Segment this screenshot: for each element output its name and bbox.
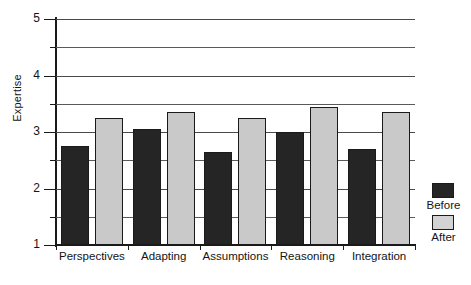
bar-assumptions-after: [238, 118, 266, 245]
y-tick-5: [44, 19, 56, 20]
y-tick-4: [44, 76, 56, 77]
bar-reasoning-after: [310, 107, 338, 245]
bar-group-integration: [343, 19, 415, 245]
x-axis-labels: PerspectivesAdaptingAssumptionsReasoning…: [56, 250, 415, 262]
bar-groups: [56, 19, 415, 245]
bar-group-perspectives: [56, 19, 128, 245]
y-tick-label-2: 2: [6, 181, 40, 195]
legend-item-before: Before: [427, 183, 461, 211]
bar-integration-before: [348, 149, 376, 245]
bar-group-adapting: [128, 19, 200, 245]
x-axis-label-adapting: Adapting: [128, 250, 200, 262]
bar-group-reasoning: [271, 19, 343, 245]
bar-adapting-after: [167, 112, 195, 245]
y-tick-1: [44, 245, 56, 246]
y-tick-2: [44, 189, 56, 190]
chart-legend: BeforeAfter: [416, 183, 471, 247]
x-axis-label-assumptions: Assumptions: [200, 250, 272, 262]
y-tick-label-3: 3: [6, 124, 40, 138]
y-tick-label-5: 5: [6, 11, 40, 25]
y-tick-label-4: 4: [6, 68, 40, 82]
x-axis-label-reasoning: Reasoning: [271, 250, 343, 262]
y-tick-label-1: 1: [6, 237, 40, 251]
bar-group-assumptions: [200, 19, 272, 245]
legend-item-after: After: [431, 215, 455, 243]
y-tick-3: [44, 132, 56, 133]
legend-label-after: After: [431, 231, 455, 243]
bar-perspectives-before: [61, 146, 89, 245]
x-axis-label-integration: Integration: [343, 250, 415, 262]
light-swatch: [432, 215, 454, 230]
legend-label-before: Before: [427, 199, 461, 211]
bar-reasoning-before: [276, 132, 304, 245]
bar-chart: Expertise 12345 PerspectivesAdaptingAssu…: [0, 0, 471, 285]
bar-perspectives-after: [95, 118, 123, 245]
bar-integration-after: [382, 112, 410, 245]
bar-assumptions-before: [204, 152, 232, 245]
bar-adapting-before: [133, 129, 161, 245]
x-axis-label-perspectives: Perspectives: [56, 250, 128, 262]
dark-swatch: [432, 183, 454, 198]
